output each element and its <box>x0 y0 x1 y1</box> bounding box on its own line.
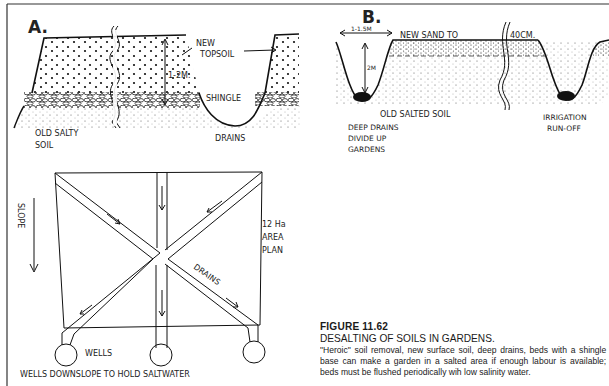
shingle-label: SHINGLE <box>206 94 241 103</box>
new-topsoil-label-2: TOPSOIL <box>199 50 235 59</box>
old-salted-soil-label: OLD SALTED SOIL <box>380 110 451 119</box>
old-salty-soil-label-1: OLD SALTY <box>35 129 78 138</box>
sand-depth-label: 40CM. <box>510 31 535 40</box>
panel-a-label: A. <box>28 17 48 37</box>
area-label-1: 12 Ha <box>262 220 286 229</box>
new-sand-label: NEW SAND TO <box>400 31 458 40</box>
panel-a-cross-section: A. NEW TOPSOIL 1-2M. SHINGLE OLD SALTY S… <box>14 17 300 150</box>
drains-label-a: DRAINS <box>215 134 245 143</box>
slope-label: SLOPE <box>16 203 25 228</box>
plan-view-labels: SLOPE 12 Ha AREA PLAN DRAINS WELLS WELLS… <box>16 203 286 379</box>
deep-drains-label-1: DEEP DRAINS <box>348 123 399 132</box>
figure-number: FIGURE 11.62 <box>320 320 586 332</box>
figure-caption: FIGURE 11.62 DESALTING OF SOILS IN GARDE… <box>320 320 609 377</box>
drain-depth-label: 2M <box>367 64 376 71</box>
new-topsoil-label-1: NEW <box>196 39 215 48</box>
plan-view <box>30 172 265 366</box>
area-label-3: PLAN <box>262 246 283 255</box>
old-salty-soil-label-2: SOIL <box>35 141 54 150</box>
deep-drains-label-3: GARDENS <box>348 145 385 154</box>
wells-label: WELLS <box>85 349 112 358</box>
panel-b-label: B. <box>362 7 381 27</box>
panel-b-cross-section: B. 1-1.5M NEW SAND TO 40CM. 2M OLD SALTE… <box>335 7 609 154</box>
deep-drains-label-2: DIVIDE UP <box>348 134 387 143</box>
width-label: 1-1.5M <box>351 25 372 32</box>
figure-description: "Heroic" soil removal, new surface soil,… <box>320 344 606 377</box>
irrigation-label-2: RUN-OFF <box>547 124 581 133</box>
irrigation-label-1: IRRIGATION <box>543 113 587 122</box>
depth-label: 1-2M. <box>168 71 191 80</box>
drains-label-plan: DRAINS <box>192 262 222 287</box>
figure-title: DESALTING OF SOILS IN GARDENS. <box>320 332 586 344</box>
area-label-2: AREA <box>262 233 284 242</box>
wells-note: WELLS DOWNSLOPE TO HOLD SALTWATER <box>20 370 190 379</box>
